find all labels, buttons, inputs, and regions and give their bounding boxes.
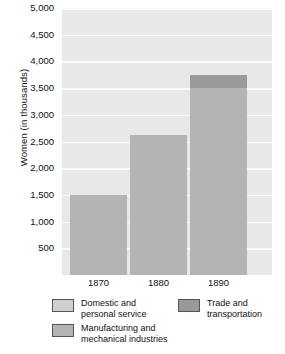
gridline [62, 35, 272, 37]
y-tick-label: 500 [38, 243, 54, 253]
legend-label-domestic: Domestic and personal service [81, 298, 147, 319]
gridline [62, 61, 272, 63]
bar-1870 [70, 195, 127, 275]
legend-label-manufacturing: Manufacturing and mechanical industries [81, 323, 168, 344]
x-tick-label-1870: 1870 [70, 277, 127, 288]
legend-swatch-trade-icon [178, 299, 200, 312]
legend-item-domestic: Domestic and personal service [52, 298, 147, 319]
y-tick-label: 1,000 [30, 217, 54, 227]
bar-segment-manufacturing [190, 88, 247, 275]
bar-1890 [190, 75, 247, 275]
legend-swatch-manufacturing-icon [52, 324, 74, 337]
legend-swatch-domestic-icon [52, 299, 74, 312]
x-axis-tick-labels: 1870 1880 1890 [62, 277, 272, 293]
y-tick-label: 2,000 [30, 163, 54, 173]
bar-segment-manufacturing [70, 195, 127, 275]
y-tick-label: 3,000 [30, 110, 54, 120]
y-tick-label: 1,500 [30, 190, 54, 200]
stacked-bar-chart: Women (in thousands) 5,000 4,500 4,000 3… [0, 0, 285, 354]
x-tick-label-1880: 1880 [130, 277, 187, 288]
y-tick-label: 5,000 [30, 3, 54, 13]
x-tick-label-1890: 1890 [190, 277, 247, 288]
y-axis-tick-labels: 5,000 4,500 4,000 3,500 3,000 2,500 2,00… [0, 8, 58, 275]
gridline [62, 8, 272, 10]
y-tick-label: 3,500 [30, 83, 54, 93]
plot-area [62, 8, 272, 275]
bar-segment-manufacturing [130, 135, 187, 275]
y-tick-label: 4,500 [30, 30, 54, 40]
y-tick-label: 2,500 [30, 137, 54, 147]
legend-label-trade: Trade and transportation [207, 298, 262, 319]
bar-1880 [130, 135, 187, 275]
legend-item-trade: Trade and transportation [178, 298, 262, 319]
bar-segment-trade [190, 75, 247, 88]
legend-item-manufacturing: Manufacturing and mechanical industries [52, 323, 168, 344]
chart-legend: Domestic and personal service Trade and … [52, 298, 285, 350]
y-tick-label: 4,000 [30, 56, 54, 66]
